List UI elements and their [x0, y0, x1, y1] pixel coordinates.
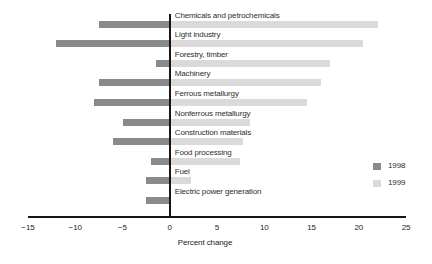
- bar-1998-forestry-timber: [156, 60, 170, 67]
- bar-1999-fuel: [170, 177, 192, 184]
- bar-1999-construction-materials: [170, 138, 243, 145]
- bar-1999-nonferrous-metallurgy: [170, 119, 250, 126]
- bar-1999-ferrous-metallurgy: [170, 99, 307, 106]
- x-tick-label-5: 5: [204, 223, 230, 233]
- bar-1998-light-industry: [56, 40, 169, 47]
- x-tick-label-15: 15: [299, 223, 325, 233]
- bar-1999-food-processing: [170, 158, 240, 165]
- plot-area: Chemicals and petrochemicalsLight indust…: [0, 0, 432, 264]
- x-tick-label-10: 10: [251, 223, 277, 233]
- bar-1999-forestry-timber: [170, 60, 331, 67]
- category-label-chemicals-and-petrochemicals: Chemicals and petrochemicals: [175, 11, 280, 21]
- bar-1998-food-processing: [151, 158, 170, 165]
- x-tick-label-0: 0: [157, 223, 183, 233]
- industrial-output-bar-chart: Chemicals and petrochemicalsLight indust…: [0, 0, 432, 264]
- legend-swatch-1998: [373, 163, 381, 170]
- category-label-electric-power-generation: Electric power generation: [175, 187, 262, 197]
- legend-swatch-1999: [373, 180, 381, 187]
- bar-1999-chemicals-and-petrochemicals: [170, 21, 378, 28]
- legend-label-1999: 1999: [388, 179, 405, 187]
- x-tick-label-neg10: −10: [62, 223, 88, 233]
- legend-item-1998: 1998: [373, 162, 405, 170]
- bar-1998-nonferrous-metallurgy: [123, 119, 170, 126]
- legend-item-1999: 1999: [373, 179, 405, 187]
- bar-1998-electric-power-generation: [146, 197, 170, 204]
- category-label-nonferrous-metallurgy: Nonferrous metallurgy: [175, 109, 251, 119]
- category-label-food-processing: Food processing: [175, 148, 232, 158]
- legend: 19981999: [373, 162, 405, 196]
- x-tick-label-25: 25: [393, 223, 419, 233]
- x-axis-title: Percent change: [125, 238, 285, 248]
- category-label-construction-materials: Construction materials: [175, 128, 251, 138]
- category-label-forestry-timber: Forestry, timber: [175, 50, 228, 60]
- bar-1998-chemicals-and-petrochemicals: [99, 21, 170, 28]
- category-label-ferrous-metallurgy: Ferrous metallurgy: [175, 89, 239, 99]
- bar-1998-fuel: [146, 177, 170, 184]
- category-label-fuel: Fuel: [175, 167, 190, 177]
- x-tick-label-neg5: −5: [110, 223, 136, 233]
- bar-1998-construction-materials: [113, 138, 170, 145]
- bar-1999-machinery: [170, 79, 321, 86]
- bar-1999-light-industry: [170, 40, 364, 47]
- x-tick-label-20: 20: [346, 223, 372, 233]
- x-axis-line: [28, 216, 406, 218]
- category-label-machinery: Machinery: [175, 69, 211, 79]
- zero-axis-line: [169, 14, 171, 218]
- bar-1998-ferrous-metallurgy: [94, 99, 170, 106]
- legend-label-1998: 1998: [388, 162, 405, 170]
- x-tick-label-neg15: −15: [15, 223, 41, 233]
- category-label-light-industry: Light industry: [175, 30, 220, 40]
- bar-1998-machinery: [99, 79, 170, 86]
